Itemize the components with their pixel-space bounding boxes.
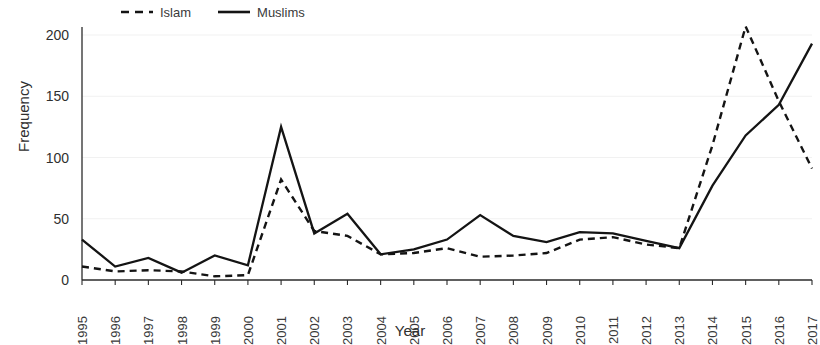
data-series bbox=[82, 26, 812, 276]
x-axis-title: Year bbox=[0, 322, 820, 339]
y-tick-label: 0 bbox=[61, 272, 69, 288]
axis-lines bbox=[82, 27, 812, 280]
y-tick-label: 150 bbox=[46, 88, 70, 104]
y-axis-ticks: 050100150200 bbox=[46, 27, 70, 288]
plot-area: 050100150200 199519961997199819992000200… bbox=[0, 0, 820, 345]
gridlines bbox=[82, 35, 812, 219]
y-tick-label: 50 bbox=[53, 211, 69, 227]
y-tick-label: 100 bbox=[46, 150, 70, 166]
series-line-muslims bbox=[82, 44, 812, 273]
line-chart: Islam Muslims Frequency 050100150200 199… bbox=[0, 0, 820, 345]
y-tick-label: 200 bbox=[46, 27, 70, 43]
